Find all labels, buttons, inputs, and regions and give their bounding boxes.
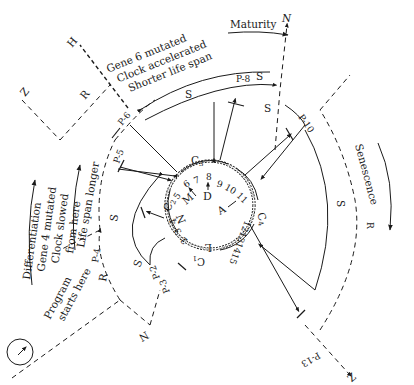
inner-label-d: D (203, 190, 212, 203)
svg-text:10: 10 (223, 182, 238, 197)
svg-text:6: 6 (181, 178, 192, 190)
point-p3: P-3 (157, 278, 171, 295)
gene6-annotation: Gene 6 mutated Clock accelerated Shorter… (104, 25, 213, 99)
cycle-label-c4: C4 (253, 211, 271, 228)
point-p5: P-5 (111, 148, 125, 165)
marker-s-left: S (107, 213, 120, 222)
svg-text:11: 11 (235, 190, 250, 205)
marker-r-lower: R (96, 271, 109, 282)
inner-label-l: L (205, 242, 212, 254)
svg-text:8: 8 (206, 172, 212, 182)
inner-label-a: A (214, 202, 228, 217)
path-r-right (320, 110, 357, 330)
svg-text:2: 2 (178, 235, 189, 246)
point-p13: P-13 (299, 350, 322, 369)
program-start-annotation: Program starts here (41, 260, 93, 327)
connector-arrows (118, 100, 298, 310)
marker-h: H (64, 35, 79, 50)
marker-s-top-left: S (185, 88, 192, 100)
marker-z-left: Z (17, 85, 31, 98)
marker-r-right: R (365, 222, 375, 229)
cycle-label-c1: C1 (192, 254, 205, 268)
marker-s-lower: S (131, 258, 145, 269)
path-to-n-top (275, 25, 287, 150)
point-p2: P-2 (148, 264, 162, 281)
marker-n-top: N (281, 12, 292, 24)
marker-s-top: S (256, 70, 263, 82)
marker-s-right: S (335, 200, 347, 207)
diagram-canvas: C3 C4 C2 C1 8 9 10 11 7 6 5 4 3 2 121314… (0, 0, 414, 385)
label-senescence: Senescence (353, 142, 381, 206)
marker-r-left: R (77, 87, 92, 102)
cycle-label-c3: C3 (191, 154, 204, 168)
marker-s-top-right: S (264, 102, 271, 114)
label-maturity: Maturity (230, 18, 277, 30)
point-p8: P-8 (236, 74, 251, 84)
marker-n-left: N (137, 329, 151, 344)
inner-label-n: N (173, 213, 187, 226)
life-cycle-clock-diagram: C3 C4 C2 C1 8 9 10 11 7 6 5 4 3 2 121314… (0, 0, 414, 385)
marker-z-bottom: Z (345, 370, 358, 384)
point-p4: P-4 (90, 247, 102, 263)
svg-text:7: 7 (192, 174, 201, 185)
svg-text:9: 9 (215, 178, 224, 189)
point-p6: P-6 (116, 110, 133, 128)
